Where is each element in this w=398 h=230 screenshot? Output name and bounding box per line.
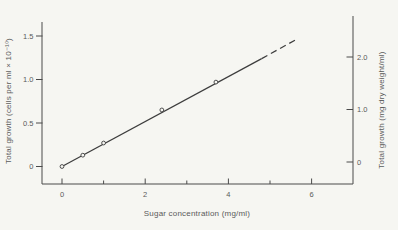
fit-line-dashed [262,39,298,59]
data-point [214,80,218,84]
data-point [81,153,85,157]
x-tick-label: 2 [143,190,147,199]
right-y-tick-label: 0 [357,158,361,167]
right-y-tick-label: 2.0 [357,53,367,62]
x-tick-label: 0 [60,190,64,199]
data-point [102,141,106,145]
data-point [60,165,64,169]
x-tick-label: 4 [226,190,230,199]
right-y-axis-title: Total growth (mg dry weight/ml) [377,51,386,168]
x-axis-title: Sugar concentration (mg/ml) [144,209,250,218]
left-y-tick-label: 1.5 [23,32,33,41]
right-y-tick-label: 1.0 [357,105,367,114]
left-y-tick-label: 1.0 [23,75,33,84]
left-y-axis-title: Total growth (cells per ml × 10⁻¹⁰) [4,38,13,164]
left-y-tick-label: 0.5 [23,119,33,128]
x-tick-label: 6 [310,190,314,199]
data-point [160,108,164,112]
growth-chart: 024600.51.01.501.02.0 Sugar concentratio… [0,0,398,230]
fit-line-solid [62,59,262,167]
growth-figure: 024600.51.01.501.02.0 Sugar concentratio… [0,0,398,230]
left-y-tick-label: 0 [29,162,33,171]
